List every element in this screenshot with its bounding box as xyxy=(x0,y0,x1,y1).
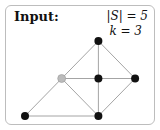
edge-right-bottom-mid xyxy=(98,79,135,117)
node-gray xyxy=(58,75,66,83)
node-bottom-left xyxy=(21,112,29,120)
node-center xyxy=(94,75,102,83)
edge-gray-bottom-left xyxy=(25,79,62,117)
graph xyxy=(0,0,160,130)
node-bottom-mid xyxy=(94,112,102,120)
edge-top-gray xyxy=(62,41,99,79)
node-right xyxy=(131,75,139,83)
edge-top-right xyxy=(98,41,135,79)
edge-gray-bottom-mid xyxy=(62,79,99,117)
node-top xyxy=(94,37,102,45)
